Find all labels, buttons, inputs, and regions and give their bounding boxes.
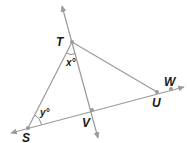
label-v: V [82, 116, 91, 130]
label-t: T [56, 35, 65, 49]
point-u [155, 90, 159, 94]
segment-st [28, 42, 72, 128]
label-u: U [152, 96, 161, 110]
label-angle-y: y° [39, 107, 51, 118]
point-s [26, 126, 30, 130]
geometry-diagram: T x° W U V y° S [0, 0, 187, 143]
point-t [70, 40, 74, 44]
label-angle-x: x° [65, 57, 77, 68]
label-s: S [22, 131, 30, 143]
label-w: W [164, 75, 177, 89]
point-v [90, 108, 94, 112]
segment-tu [72, 42, 157, 92]
angle-arc-x [67, 53, 76, 55]
